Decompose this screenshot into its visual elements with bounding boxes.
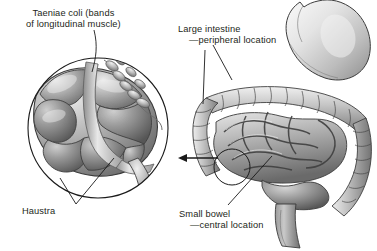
stomach bbox=[286, 0, 370, 80]
label-haustra-line1: Haustra bbox=[22, 206, 55, 216]
rectum-sigmoid bbox=[262, 180, 329, 248]
label-taeniae-coli-line1: Taeniae coli (bands bbox=[32, 8, 114, 18]
small-bowel-loops bbox=[214, 112, 347, 183]
leader-large-intestine-2 bbox=[203, 50, 205, 104]
label-small-bowel-line2: —central location bbox=[179, 220, 264, 231]
cecum-inset bbox=[28, 53, 168, 202]
label-small-bowel: Small bowel —central location bbox=[179, 209, 264, 232]
label-large-intestine: Large intestine —peripheral location bbox=[178, 24, 276, 47]
label-taeniae-coli: Taeniae coli (bands of longitudinal musc… bbox=[26, 8, 121, 31]
label-large-intestine-line1: Large intestine bbox=[178, 24, 241, 34]
leader-large-intestine-1 bbox=[213, 45, 232, 80]
label-taeniae-coli-line2: of longitudinal muscle) bbox=[26, 19, 121, 30]
anatomy-figure: Taeniae coli (bands of longitudinal musc… bbox=[0, 0, 377, 251]
label-large-intestine-line2: —peripheral location bbox=[178, 35, 276, 46]
label-haustra: Haustra bbox=[22, 206, 55, 217]
label-small-bowel-line1: Small bowel bbox=[179, 209, 230, 219]
